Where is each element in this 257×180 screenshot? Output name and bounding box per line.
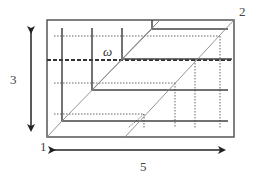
outer-rectangle [47,20,234,137]
height-label: 3 [10,73,17,86]
diagram-canvas: 3 5 1 2 ω [0,0,257,180]
nested-l-shapes [62,20,232,121]
diagonal-lines [47,20,234,137]
omega-label: ω [103,45,112,58]
corner-2-label: 2 [239,5,246,18]
corner-1-label: 1 [40,140,47,153]
diagram-svg [0,0,257,180]
width-label: 5 [140,160,147,173]
